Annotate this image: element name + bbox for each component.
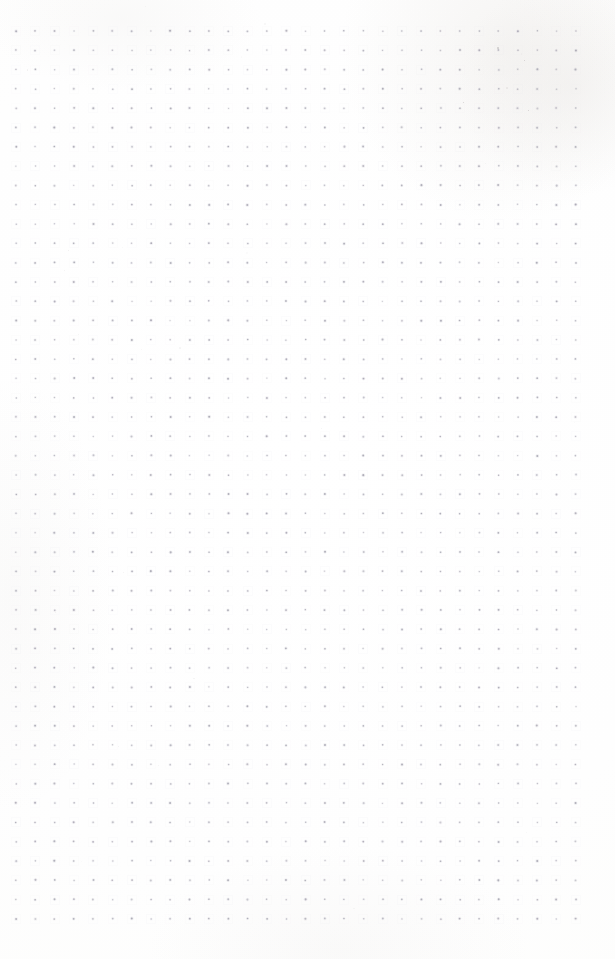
paper-background (0, 0, 615, 959)
dot-grid-page (0, 0, 615, 959)
